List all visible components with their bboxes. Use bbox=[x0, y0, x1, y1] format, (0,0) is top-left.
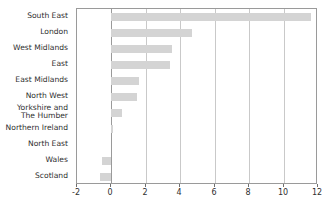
bar-row bbox=[77, 61, 316, 69]
bar[interactable] bbox=[111, 93, 137, 101]
category-label: Wales bbox=[0, 156, 68, 164]
x-tick-label: 12 bbox=[305, 188, 329, 198]
x-tick-label: 0 bbox=[98, 188, 122, 198]
bar-row bbox=[77, 45, 316, 53]
category-label: West Midlands bbox=[0, 44, 68, 52]
x-tick-label: 2 bbox=[133, 188, 157, 198]
category-label: East bbox=[0, 60, 68, 68]
bar-row bbox=[77, 157, 316, 165]
bar[interactable] bbox=[111, 109, 121, 117]
bar[interactable] bbox=[111, 13, 311, 21]
category-label: Yorkshire and The Humber bbox=[0, 104, 68, 121]
x-tick-label: 8 bbox=[236, 188, 260, 198]
category-label: North West bbox=[0, 92, 68, 100]
bar-row bbox=[77, 13, 316, 21]
bar-row bbox=[77, 125, 316, 133]
bar-row bbox=[77, 29, 316, 37]
x-tick-mark bbox=[248, 184, 249, 187]
x-tick-mark bbox=[145, 184, 146, 187]
bar-row bbox=[77, 109, 316, 117]
bar-row bbox=[77, 93, 316, 101]
x-axis: -2024681012 bbox=[76, 184, 317, 205]
x-tick-mark bbox=[214, 184, 215, 187]
bar[interactable] bbox=[100, 173, 111, 181]
bar[interactable] bbox=[102, 157, 111, 165]
bar[interactable] bbox=[111, 45, 171, 53]
category-axis-labels: South EastLondonWest MidlandsEastEast Mi… bbox=[0, 8, 72, 184]
bar[interactable] bbox=[111, 29, 192, 37]
category-label: London bbox=[0, 28, 68, 36]
bar[interactable] bbox=[111, 125, 113, 133]
plot-area bbox=[76, 8, 317, 184]
category-label: Northern Ireland bbox=[0, 124, 68, 132]
x-tick-label: 6 bbox=[202, 188, 226, 198]
x-tick-label: 4 bbox=[167, 188, 191, 198]
x-tick-mark bbox=[179, 184, 180, 187]
category-label: East Midlands bbox=[0, 76, 68, 84]
x-tick-mark bbox=[76, 184, 77, 187]
category-label: Scotland bbox=[0, 172, 68, 180]
category-label: South East bbox=[0, 12, 68, 20]
bar[interactable] bbox=[111, 61, 170, 69]
x-tick-label: -2 bbox=[64, 188, 88, 198]
bar-row bbox=[77, 77, 316, 85]
x-tick-mark bbox=[110, 184, 111, 187]
x-tick-mark bbox=[317, 184, 318, 187]
x-tick-mark bbox=[283, 184, 284, 187]
bar-row bbox=[77, 173, 316, 181]
bar[interactable] bbox=[111, 77, 139, 85]
category-label: North East bbox=[0, 140, 68, 148]
x-tick-label: 10 bbox=[271, 188, 295, 198]
bar-row bbox=[77, 141, 316, 149]
bar-chart: South EastLondonWest MidlandsEastEast Mi… bbox=[0, 0, 329, 205]
